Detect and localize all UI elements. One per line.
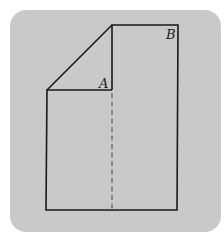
label-b: B <box>165 27 176 42</box>
label-a: A <box>98 76 108 91</box>
folded-paper-diagram: A B <box>0 0 224 236</box>
